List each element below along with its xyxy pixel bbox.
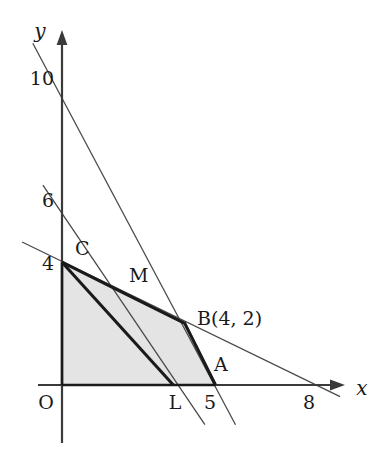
point-label-A: A	[213, 353, 228, 375]
y-axis-arrowhead	[57, 30, 68, 45]
x-axis-arrowhead	[330, 380, 345, 391]
y-tick-label-4: 4	[42, 252, 54, 274]
point-label-O: O	[38, 391, 54, 413]
point-label-C: C	[75, 237, 90, 259]
point-label-M: M	[129, 264, 148, 286]
y-tick-label-6: 6	[42, 189, 54, 211]
coordinate-figure: y x 10 6 4 5 8 O C M B(4, 2) A L	[0, 0, 388, 455]
y-tick-label-10: 10	[30, 67, 54, 89]
point-label-B: B(4, 2)	[197, 307, 262, 329]
x-tick-label-8: 8	[303, 391, 315, 413]
x-axis-label: x	[356, 376, 367, 400]
point-label-L: L	[169, 391, 182, 413]
graph-canvas: y x 10 6 4 5 8 O C M B(4, 2) A L	[0, 0, 388, 455]
x-tick-label-5: 5	[204, 391, 216, 413]
y-axis-label: y	[33, 19, 46, 43]
